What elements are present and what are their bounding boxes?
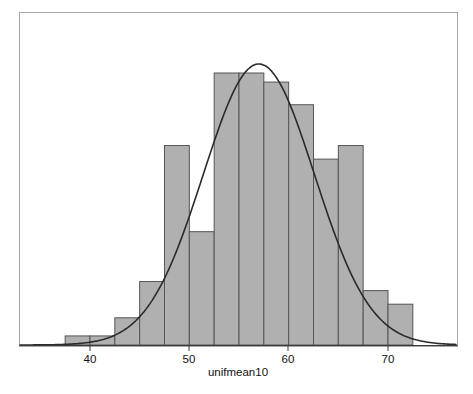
table-row [239,73,264,345]
table-row [314,159,339,345]
x-tick-label-40: 40 [84,353,97,365]
table-row [289,105,314,345]
table-row [214,73,239,345]
x-axis-title: unifmean10 [208,366,268,378]
table-row [189,232,214,345]
x-tick-label-60: 60 [282,353,295,365]
table-row [338,146,363,345]
table-row [115,318,140,345]
x-tick-label-70: 70 [382,353,395,365]
histogram-chart: 40 50 60 70 unifmean10 [0,0,473,394]
x-tick-label-50: 50 [183,353,196,365]
table-row [388,304,413,345]
chart-canvas: 40 50 60 70 unifmean10 [0,0,473,394]
table-row [363,291,388,345]
table-row [165,146,190,345]
table-row [264,82,289,345]
x-axis-tick-labels: 40 50 60 70 [84,353,395,365]
